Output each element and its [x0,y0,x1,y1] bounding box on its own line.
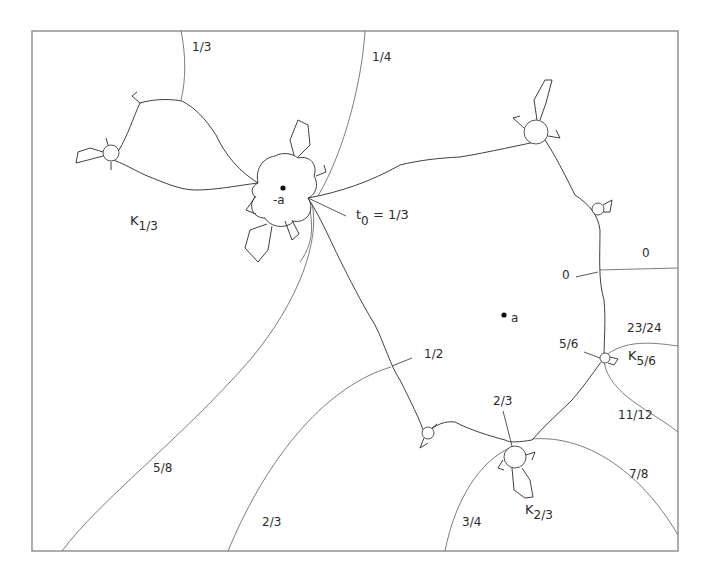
label-a: a [511,311,518,325]
ray-1-2 [228,367,391,551]
k-5-6-subscript: 5/6 [637,354,656,368]
k-2-3-subscript: 2/3 [534,508,553,522]
label-k-1-3: K1/3 [130,213,158,233]
label-k-5-6: K5/6 [628,348,656,368]
k-1-3-lobe [105,100,258,190]
point-minus-a [280,185,285,190]
julia-set-boundary [76,80,618,498]
ray-1-4 [318,31,365,196]
label-ray-5-6: 5/6 [559,337,578,351]
ray-1-3 [181,31,185,100]
bottom-left-bulb [422,427,434,439]
label-ray-0-inner: 0 [562,268,570,282]
label-minus-a: -a [273,193,285,207]
ray-0 [598,268,678,270]
label-ray-0-outer: 0 [642,246,650,260]
t0-subscript: 0 [361,214,369,228]
point-a [501,312,506,317]
label-ray-3-4: 3/4 [462,515,481,529]
label-ray-2-3-bottom: 2/3 [262,515,281,529]
ray-3-4 [445,447,512,551]
right-bulb-decor [603,200,612,212]
t0-value: = 1/3 [369,207,409,222]
label-ray-1-4: 1/4 [372,50,391,64]
label-ray-1-3: 1/3 [192,40,211,54]
label-ray-2-3-inner: 2/3 [493,394,512,408]
julia-set-figure: -a a 1/3 1/4 0 0 23/24 5/6 11/12 2/3 7/8… [0,0,709,576]
label-ray-5-8: 5/8 [153,461,172,475]
top-right-bulb [524,120,548,144]
label-k-2-3: K2/3 [525,502,553,522]
ray-5-8 [62,203,314,551]
label-ray-23-24: 23/24 [627,321,662,335]
label-ray-7-8: 7/8 [629,467,648,481]
k-1-3-subscript: 1/3 [139,219,158,233]
k-5-6-component [600,353,610,363]
k-1-3-bulb [103,145,119,161]
k-2-3-component [504,446,526,468]
label-ray-1-2: 1/2 [424,347,443,361]
label-ray-11-12: 11/12 [618,408,653,422]
right-bulb [592,203,604,215]
main-component [308,140,605,442]
